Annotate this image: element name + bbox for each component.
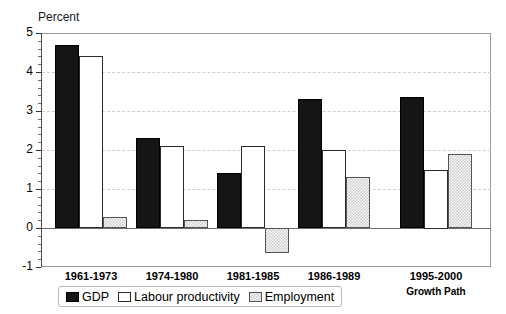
y-tick-minor xyxy=(38,236,41,237)
y-tick-minor xyxy=(38,251,41,252)
y-axis-line xyxy=(41,33,42,267)
y-tick-major-1 xyxy=(36,189,41,190)
legend-label: GDP xyxy=(82,290,109,304)
y-tick-label: 5 xyxy=(8,25,33,39)
y-tick-label: -1 xyxy=(8,259,33,273)
y-axis-title: Percent xyxy=(38,10,79,24)
y-tick-minor xyxy=(38,142,41,143)
black-square-swatch xyxy=(66,292,79,302)
y-tick-minor xyxy=(38,173,41,174)
y-tick-minor xyxy=(38,212,41,213)
y-tick-minor xyxy=(38,158,41,159)
y-tick-minor xyxy=(38,49,41,50)
y-tick-minor xyxy=(38,95,41,96)
y-tick-minor xyxy=(38,88,41,89)
chart-legend: GDPLabour productivityEmployment xyxy=(58,286,342,307)
bar-labour-1974-1980 xyxy=(160,146,184,228)
legend-item-gdp: GDP xyxy=(66,290,109,304)
y-tick-minor xyxy=(38,166,41,167)
bar-labour-1995-2000 xyxy=(424,170,448,229)
y-tick-minor xyxy=(38,41,41,42)
y-tick-minor xyxy=(38,56,41,57)
bar-employment-1981-1985 xyxy=(265,228,289,253)
y-tick-minor xyxy=(38,205,41,206)
white-square-swatch xyxy=(118,292,131,302)
y-tick-label: 4 xyxy=(8,64,33,78)
bar-gdp-1981-1985 xyxy=(217,173,241,228)
y-tick-minor xyxy=(38,259,41,260)
bar-gdp-1961-1973 xyxy=(55,45,79,228)
legend-label: Employment xyxy=(265,290,334,304)
bar-gdp-1974-1980 xyxy=(136,138,160,228)
y-tick-major-0 xyxy=(36,228,41,229)
y-tick-label: 1 xyxy=(8,181,33,195)
bar-employment-1995-2000 xyxy=(448,154,472,228)
bar-gdp-1995-2000 xyxy=(400,97,424,228)
bar-employment-1974-1980 xyxy=(184,220,208,228)
y-tick-minor xyxy=(38,103,41,104)
bar-chart: Percent 543210-1 1961-19731974-19801981-… xyxy=(0,0,506,314)
y-tick-major-3 xyxy=(36,111,41,112)
y-tick-label: 3 xyxy=(8,103,33,117)
hatched-square-swatch xyxy=(249,292,262,302)
y-tick-minor xyxy=(38,127,41,128)
category-sublabel-1995-2000: Growth Path xyxy=(386,286,486,297)
y-tick-minor xyxy=(38,220,41,221)
y-tick-minor xyxy=(38,119,41,120)
y-tick-minor xyxy=(38,64,41,65)
legend-item-employment: Employment xyxy=(249,290,334,304)
bar-employment-1961-1973 xyxy=(103,217,127,228)
legend-label: Labour productivity xyxy=(134,290,240,304)
y-tick-minor xyxy=(38,244,41,245)
bar-labour-1961-1973 xyxy=(79,56,103,228)
y-tick-major--1 xyxy=(36,267,41,268)
bar-employment-1986-1989 xyxy=(346,177,370,228)
legend-item-labour: Labour productivity xyxy=(118,290,240,304)
y-tick-minor xyxy=(38,197,41,198)
bar-labour-1986-1989 xyxy=(322,150,346,228)
y-tick-major-2 xyxy=(36,150,41,151)
y-tick-minor xyxy=(38,134,41,135)
category-label-1995-2000: 1995-2000 xyxy=(386,270,486,282)
bar-labour-1981-1985 xyxy=(241,146,265,228)
y-tick-minor xyxy=(38,80,41,81)
y-tick-major-5 xyxy=(36,33,41,34)
bar-gdp-1986-1989 xyxy=(298,99,322,228)
gridline-4 xyxy=(42,72,491,73)
y-tick-label: 2 xyxy=(8,142,33,156)
y-tick-minor xyxy=(38,181,41,182)
y-tick-label: 0 xyxy=(8,220,33,234)
y-tick-major-4 xyxy=(36,72,41,73)
category-label-1986-1989: 1986-1989 xyxy=(284,270,384,282)
